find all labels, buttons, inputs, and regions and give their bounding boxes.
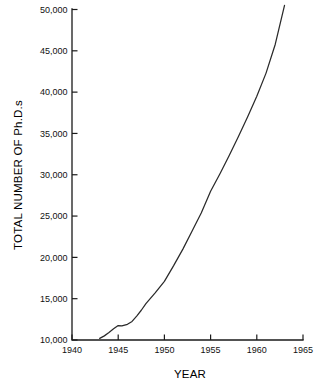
x-axis-ticks: 194019451950195519601965	[62, 335, 313, 356]
x-tick-label: 1950	[154, 345, 174, 355]
x-axis-title: YEAR	[174, 368, 206, 380]
y-tick-label: 10,000	[40, 335, 68, 345]
y-tick-label: 15,000	[40, 294, 68, 304]
x-tick-label: 1965	[293, 345, 313, 355]
y-tick-label: 25,000	[40, 211, 68, 221]
y-tick-label: 20,000	[40, 253, 68, 263]
y-tick-label: 50,000	[40, 5, 68, 15]
chart-figure: TOTAL NUMBER OF Ph.D.s YEAR 10,00015,000…	[0, 0, 323, 385]
x-tick-label: 1940	[62, 345, 82, 355]
y-axis-title: TOTAL NUMBER OF Ph.D.s	[12, 100, 24, 250]
y-tick-label: 45,000	[40, 46, 68, 56]
x-tick-label: 1955	[201, 345, 221, 355]
x-tick-label: 1960	[247, 345, 267, 355]
data-series-line	[100, 5, 285, 338]
y-tick-label: 40,000	[40, 87, 68, 97]
y-tick-label: 30,000	[40, 170, 68, 180]
axis-spines	[72, 9, 303, 340]
line-chart: TOTAL NUMBER OF Ph.D.s YEAR 10,00015,000…	[0, 0, 323, 385]
y-tick-label: 35,000	[40, 129, 68, 139]
x-tick-label: 1945	[108, 345, 128, 355]
